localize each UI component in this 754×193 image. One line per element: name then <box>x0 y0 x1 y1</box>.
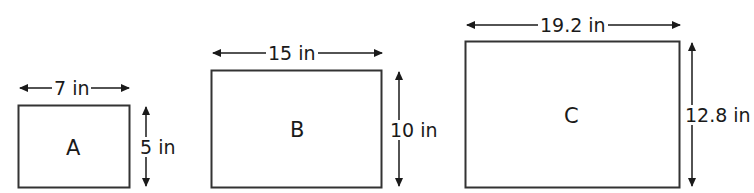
width-label-a: 7 in <box>52 78 91 98</box>
height-label-a: 5 in <box>138 137 177 157</box>
rectangle-label-b: B <box>290 119 304 141</box>
width-label-c: 19.2 in <box>538 15 608 35</box>
width-label-b: 15 in <box>266 43 318 63</box>
rectangle-label-a: A <box>66 137 80 159</box>
height-label-b: 10 in <box>388 120 440 140</box>
rectangle-label-c: C <box>564 105 579 127</box>
height-label-c: 12.8 in <box>683 105 753 125</box>
diagram-canvas <box>0 0 754 193</box>
